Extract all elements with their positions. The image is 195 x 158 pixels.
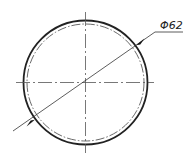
- diameter-dimension-label: Φ62: [160, 19, 183, 32]
- technical-drawing: Φ62: [0, 0, 195, 158]
